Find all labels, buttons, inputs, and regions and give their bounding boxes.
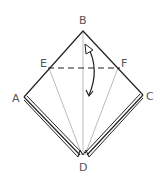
lower-left-edge-1 [24,97,80,155]
lower-right-edge-2 [89,98,143,157]
label-a: A [12,92,20,105]
label-d: D [79,161,87,174]
fold-arrow-curve [88,47,94,95]
label-c: C [146,90,154,103]
label-b: B [79,14,87,27]
label-f: F [121,57,127,70]
origami-diagram: B E F A C D [0,0,168,185]
label-e: E [40,57,47,70]
lower-left-edge-3 [27,96,82,153]
crease-e-d [49,68,82,155]
lower-right-edge-3 [85,94,140,153]
lower-left-edge-2 [24,100,78,157]
crease-f-d [85,68,118,155]
fold-arrow-hollow-head [85,44,93,54]
lower-right-edge-1 [87,95,143,155]
